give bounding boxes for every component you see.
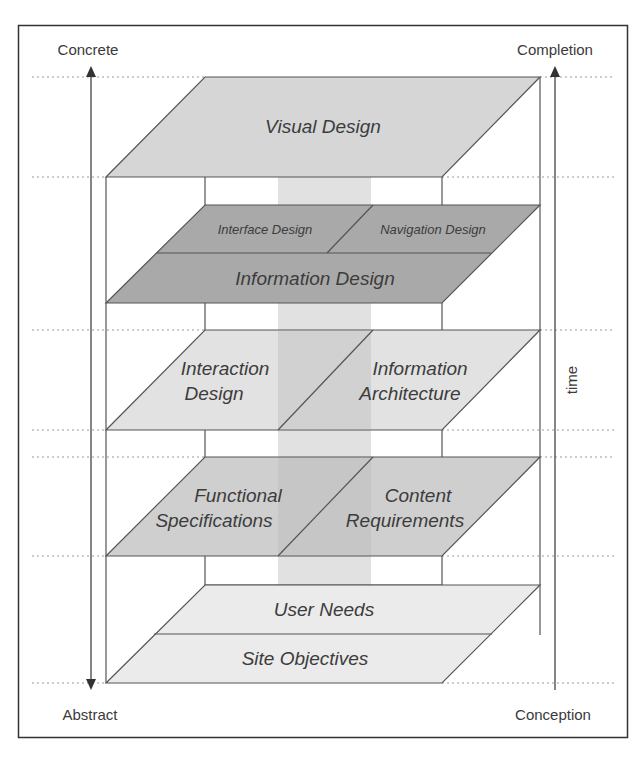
content-requirements-label-line2: Requirements (346, 510, 465, 531)
interaction-design-label-line1: Interaction (181, 358, 270, 379)
functional-specifications-label-line2: Specifications (155, 510, 273, 531)
elements-of-user-experience-diagram: Visual Design Interface Design Navigatio… (0, 0, 644, 758)
abstract-label: Abstract (62, 706, 118, 723)
information-architecture-label-line1: Information (372, 358, 467, 379)
information-architecture-label-line2: Architecture (358, 383, 460, 404)
concrete-label: Concrete (58, 41, 119, 58)
completion-label: Completion (517, 41, 593, 58)
visual-design-label: Visual Design (265, 116, 381, 137)
conception-label: Conception (515, 706, 591, 723)
user-needs-label: User Needs (274, 599, 375, 620)
interface-design-label: Interface Design (218, 222, 313, 237)
navigation-design-label: Navigation Design (380, 222, 486, 237)
interaction-design-label-line2: Design (184, 383, 243, 404)
functional-specifications-label-line1: Functional (194, 485, 282, 506)
information-design-label: Information Design (235, 268, 394, 289)
content-requirements-label-line1: Content (385, 485, 452, 506)
site-objectives-label: Site Objectives (242, 648, 369, 669)
time-label: time (563, 366, 580, 394)
